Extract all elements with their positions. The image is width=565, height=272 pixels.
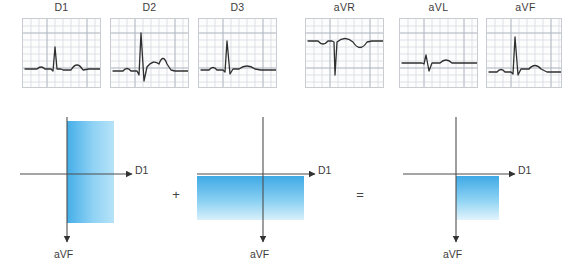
ecg-label-d2: D2 bbox=[110, 0, 189, 14]
ecg-panel-d1 bbox=[22, 18, 101, 88]
ecg-panel-d3 bbox=[198, 18, 277, 88]
ecg-label-d3: D3 bbox=[198, 0, 277, 14]
ecg-axis-figure: D1 bbox=[0, 0, 565, 272]
ecg-trace-d2 bbox=[111, 19, 189, 88]
ecg-panel-avf bbox=[486, 18, 562, 88]
vector-diagram-row: D1 aVF + bbox=[0, 105, 565, 272]
resultant-axis-label-y: aVF bbox=[443, 248, 462, 260]
avf-magnitude-block bbox=[197, 176, 304, 220]
ecg-label-avl: aVL bbox=[399, 0, 478, 14]
avf-vector-panel: D1 aVF bbox=[185, 105, 350, 272]
d1-vector-graphic bbox=[0, 105, 170, 272]
equals-operator: = bbox=[352, 188, 368, 201]
avf-axis-label-y: aVF bbox=[250, 248, 269, 260]
d1-axis-label-x: D1 bbox=[135, 164, 148, 176]
ecg-panel-d2 bbox=[110, 18, 189, 88]
ecg-trace-avf bbox=[487, 19, 562, 88]
plus-operator: + bbox=[168, 188, 184, 201]
resultant-vector-graphic bbox=[385, 105, 565, 272]
resultant-vector-panel: D1 aVF bbox=[385, 105, 565, 272]
d1-axis-label-y: aVF bbox=[54, 248, 73, 260]
avf-axis-label-x: D1 bbox=[318, 164, 331, 176]
ecg-label-avf: aVF bbox=[486, 0, 565, 14]
ecg-panel-avl bbox=[399, 18, 478, 88]
ecg-trace-d1 bbox=[23, 19, 101, 88]
ecg-trace-avl bbox=[400, 19, 478, 88]
d1-vector-panel: D1 aVF bbox=[0, 105, 170, 272]
ecg-trace-avr bbox=[306, 19, 384, 88]
ecg-label-d1: D1 bbox=[22, 0, 101, 14]
avf-vector-graphic bbox=[185, 105, 350, 272]
resultant-axis-label-x: D1 bbox=[518, 164, 531, 176]
d1-magnitude-block bbox=[67, 121, 114, 223]
ecg-panel-avr bbox=[305, 18, 384, 88]
ecg-label-avr: aVR bbox=[305, 0, 384, 14]
resultant-magnitude-block bbox=[456, 176, 499, 220]
ecg-strip-row: D1 bbox=[0, 0, 565, 105]
ecg-trace-d3 bbox=[199, 19, 277, 88]
